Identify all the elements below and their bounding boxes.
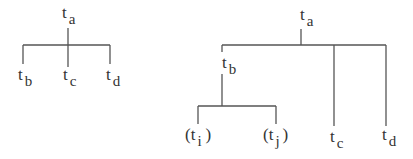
left-node-d: td [106,66,120,83]
right-node-b: tb [222,54,236,71]
right-node-d: td [382,126,396,143]
right-node-c: tc [330,128,343,145]
left-node-b: tb [18,66,32,83]
left-node-c: tc [63,66,76,83]
right-node-i: (ti) [185,126,211,143]
right-root-node: ta [300,6,313,23]
right-node-j: (tj) [263,126,288,143]
left-root-node: ta [62,4,75,21]
